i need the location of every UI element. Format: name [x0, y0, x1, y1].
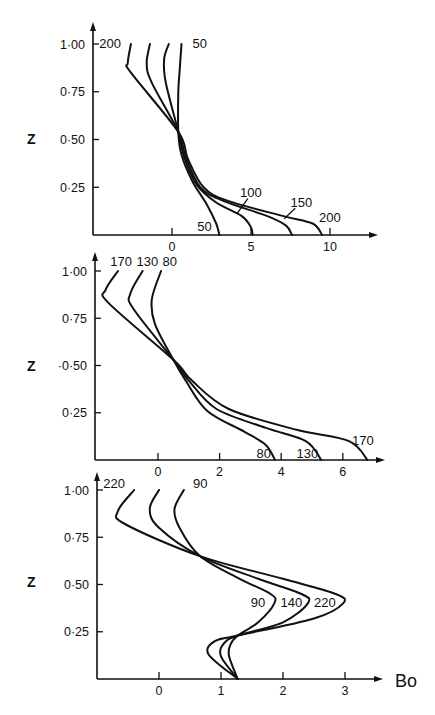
y-tick-label: 1·00: [60, 38, 85, 52]
y-tick-label: 0·25: [62, 406, 87, 420]
curve-label: 170: [110, 254, 132, 269]
y-tick-label: 0·25: [64, 625, 89, 639]
curve-label: 170: [352, 433, 374, 448]
z-axis-label: Z: [27, 574, 36, 590]
top-panel: 1·000·750·500·25Z05102005010015020050: [27, 22, 378, 254]
curve-150: [147, 44, 292, 235]
x-axis-label-bo: Bo: [395, 671, 417, 691]
curve-label: 90: [251, 595, 265, 610]
x-tick-label: 10: [323, 240, 337, 254]
y-axis-arrow-icon: [90, 22, 96, 31]
curve-label: 130: [136, 254, 158, 269]
curve-80: [151, 271, 275, 460]
curve-label: 80: [257, 446, 271, 461]
y-axis-arrow-icon: [92, 252, 98, 261]
curve-label: 150: [291, 195, 313, 210]
y-tick-label: ·0·50: [58, 359, 87, 373]
middle-panel: 1·000·75·0·500·25Z02461701308080130170: [27, 252, 385, 479]
y-tick-label: 0·25: [60, 181, 85, 195]
curve-90: [174, 490, 275, 679]
curve-220: [116, 490, 345, 679]
y-tick-label: 1·00: [64, 484, 89, 498]
curve-label: 130: [297, 446, 319, 461]
z-axis-label: Z: [27, 358, 36, 374]
y-tick-label: 0·50: [60, 133, 85, 147]
curve-label: 200: [319, 210, 341, 225]
x-tick-label: 4: [278, 465, 285, 479]
figure-canvas: 1·000·750·500·25Z05102005010015020050 1·…: [0, 0, 435, 715]
x-tick-label: 0: [169, 240, 176, 254]
x-tick-label: 0: [156, 684, 163, 698]
y-tick-label: 0·75: [64, 531, 89, 545]
y-axis-arrow-icon: [94, 472, 100, 481]
x-tick-label: 2: [280, 684, 287, 698]
curve-130: [129, 271, 322, 460]
curve-label: 80: [163, 254, 177, 269]
x-tick-label: 0: [155, 465, 162, 479]
x-axis-arrow-icon: [369, 232, 378, 238]
y-tick-label: 1·00: [62, 265, 87, 279]
curve-label: 100: [240, 185, 262, 200]
y-tick-label: 0·75: [60, 85, 85, 99]
y-tick-label: 0·50: [64, 578, 89, 592]
curve-label: 50: [197, 219, 211, 234]
curve-label: 50: [193, 36, 207, 51]
bottom-panel: 1·000·750·500·25Z01232209090140220: [27, 472, 383, 698]
x-tick-label: 6: [339, 465, 346, 479]
curve-label: 220: [314, 595, 336, 610]
x-axis-arrow-icon: [374, 676, 383, 682]
x-tick-label: 3: [342, 684, 349, 698]
x-axis-arrow-icon: [376, 457, 385, 463]
curve-170: [102, 271, 367, 460]
x-tick-label: 5: [248, 240, 255, 254]
curve-label: 140: [281, 595, 303, 610]
x-tick-label: 1: [218, 684, 225, 698]
curve-50: [178, 44, 219, 235]
z-axis-label: Z: [27, 131, 36, 147]
y-tick-label: 0·75: [62, 312, 87, 326]
curve-label: 90: [193, 476, 207, 491]
curve-label: 200: [99, 36, 121, 51]
curve-label: 220: [103, 476, 125, 491]
x-tick-label: 2: [216, 465, 223, 479]
